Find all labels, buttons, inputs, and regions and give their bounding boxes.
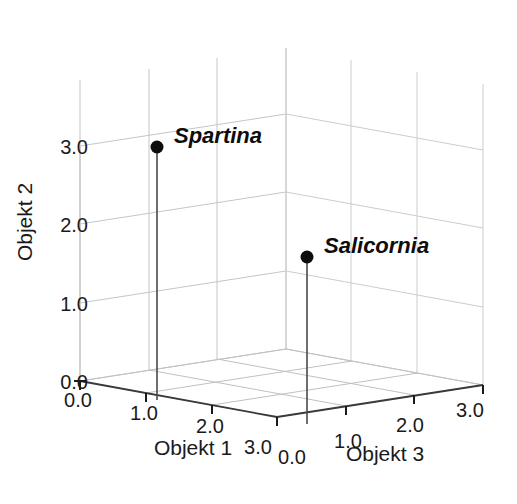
scatter3d-plot: Spartina Salicornia 0.0 1.0 2.0 3.0 Obje…	[0, 0, 517, 504]
y-axis-title: Objekt 2	[13, 183, 36, 261]
gridline-right-y3	[286, 114, 483, 150]
y-tick-label-3: 3.0	[60, 136, 88, 158]
y-tick-label-1: 1.0	[60, 293, 88, 315]
z-axis-title: Objekt 3	[346, 442, 424, 465]
point-label-spartina: Spartina	[174, 123, 262, 148]
x-tick-label-2: 2.0	[196, 415, 224, 437]
gridline-right-y1	[286, 271, 483, 307]
gridline-left-y2	[80, 192, 286, 224]
axis-lines	[80, 146, 483, 417]
data-markers	[151, 141, 314, 264]
marker-spartina[interactable]	[151, 141, 164, 154]
z-axis-ticks	[277, 385, 483, 426]
x-tick-label-3: 3.0	[244, 436, 272, 458]
y-tick-label-2: 2.0	[60, 214, 88, 236]
plot-canvas: Spartina Salicornia 0.0 1.0 2.0 3.0 Obje…	[0, 0, 517, 504]
right-back-wall-grid	[286, 48, 483, 385]
z-tick-label-0: 0.0	[278, 446, 306, 468]
point-label-salicornia: Salicornia	[324, 233, 429, 258]
marker-salicornia[interactable]	[301, 251, 314, 264]
x-tick-label-1: 1.0	[130, 402, 158, 424]
z-tick-label-3: 3.0	[456, 399, 484, 421]
x-tick-label-0: 0.0	[64, 389, 92, 411]
gridline-left-y1	[80, 271, 286, 303]
z-tick-label-2: 2.0	[396, 414, 424, 436]
gridline-right-y2	[286, 192, 483, 228]
left-back-wall-grid	[80, 48, 286, 381]
x-axis-title: Objekt 1	[154, 436, 232, 459]
